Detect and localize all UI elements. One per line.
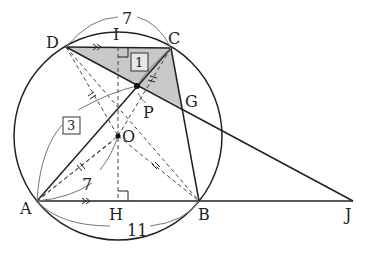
label-h: H xyxy=(109,205,123,224)
label-dc-length: 7 xyxy=(122,9,132,28)
label-d: D xyxy=(46,33,59,52)
arc-angle-p xyxy=(138,93,146,103)
label-ao-length: 7 xyxy=(82,175,92,194)
geometry-diagram: 1 3 7 11 7 D I C P G O A H B J xyxy=(0,0,366,255)
box-1-text: 1 xyxy=(135,55,143,70)
segment-ac xyxy=(37,48,171,201)
label-c: C xyxy=(168,29,180,48)
box-3-text: 3 xyxy=(67,118,75,133)
label-a: A xyxy=(19,199,32,218)
label-i: I xyxy=(113,25,119,44)
label-b: B xyxy=(198,205,210,224)
label-o: O xyxy=(122,127,135,146)
segment-cb xyxy=(171,48,199,201)
label-p: P xyxy=(143,103,154,122)
point-o xyxy=(116,134,121,139)
point-p xyxy=(134,83,140,89)
label-g: G xyxy=(185,92,198,111)
segment-dj xyxy=(66,47,353,201)
label-ab-length: 11 xyxy=(127,221,147,240)
label-j: J xyxy=(343,205,351,224)
right-angle-h xyxy=(118,191,128,201)
